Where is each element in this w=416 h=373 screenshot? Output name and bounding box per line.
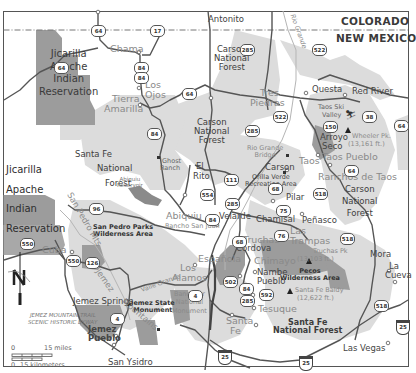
interstate-25-shield: 25: [299, 356, 313, 371]
area-pecos-wilderness: PecosWilderness Area: [280, 268, 340, 282]
town-taos-ski-2: Valley: [322, 112, 341, 119]
route-84-shield: 84: [239, 283, 254, 295]
town-santa-fe-2: Fe: [230, 326, 241, 336]
town-la-cueva-2: Cueva: [385, 271, 412, 280]
area-jicarilla-west: JicarillaApacheIndianReservation: [6, 160, 65, 238]
route-518-shield: 518: [313, 188, 328, 200]
town-ghost-ranch-2: Ranch: [160, 165, 180, 172]
peak-santa-fe-baldy-1: Santa Fe Baldy: [295, 287, 344, 294]
town-tres-piedras-2: Piedras: [250, 98, 285, 108]
ski-icon: ⛷: [345, 111, 356, 120]
route-84-shield: 84: [147, 128, 162, 140]
town-pilar: Pilar: [286, 193, 304, 202]
town-tierra-amarilla-2: Amarilla: [104, 104, 143, 114]
route-76-shield: 76: [274, 230, 289, 242]
route-126-shield: 126: [85, 257, 100, 269]
route-64-shield: 64: [344, 165, 359, 177]
route-84-shield: 84: [134, 72, 149, 84]
town-red-river: Red River: [352, 87, 393, 96]
town-el-rito-1: El: [196, 162, 204, 171]
area-carson-nf-east: CarsonNationalForest: [342, 184, 377, 220]
route-4-shield: 4: [188, 290, 203, 302]
town-chama: Chama: [110, 44, 144, 54]
peak-wheeler-1: Wheeler Pk.: [352, 133, 391, 140]
area-carson-nf-mid: CarsonNationalForest: [194, 118, 229, 145]
state-label-new-mexico: NEW MEXICO: [336, 33, 416, 44]
town-los-ojos-2: Ojos: [145, 90, 166, 100]
interstate-25-shield: 25: [396, 320, 410, 335]
town-carson: Carson: [265, 163, 295, 172]
santa-fe-baldy-icon: [287, 288, 293, 294]
area-santa-fe-nf-south: Santa FeNational Forest: [273, 319, 342, 336]
scale-km: 15 kilometers: [20, 362, 65, 369]
route-285-shield: 285: [245, 125, 260, 137]
route-96-shield: 96: [89, 203, 104, 215]
route-285-shield: 285: [240, 295, 255, 307]
route-550-shield: 550: [66, 255, 81, 267]
route-111-shield: 111: [224, 174, 239, 186]
byway-label-1: JEMEZ MOUNTAIN TRAIL: [30, 313, 96, 319]
town-jemez-pueblo-2: Pueblo: [88, 334, 121, 343]
scale-miles: 15 miles: [44, 345, 72, 352]
route-68-shield: 68: [232, 236, 247, 248]
route-554-shield: 554: [200, 189, 215, 201]
route-592-shield: 592: [259, 289, 274, 301]
route-64-shield: 64: [91, 25, 106, 37]
route-84-shield: 84: [205, 214, 220, 226]
route-522-shield: 522: [273, 111, 288, 123]
route-522-shield: 522: [312, 44, 327, 56]
route-17-shield: 17: [150, 25, 165, 37]
town-velarde: Velarde: [219, 212, 251, 221]
route-4-shield: 4: [110, 313, 125, 325]
town-antonito: Antonito: [208, 15, 244, 24]
route-518-shield: 518: [374, 300, 389, 312]
area-rio-grande-bridge: Rio GrandeBridge: [247, 145, 283, 159]
route-64-shield: 64: [182, 88, 197, 100]
peak-truchas-1: Truchas Pk: [313, 248, 348, 255]
route-285-shield: 285: [240, 44, 255, 56]
peak-santa-fe-baldy-2: (12,622 ft.): [297, 295, 334, 302]
peak-truchas-2: (13,103 ft.): [297, 256, 334, 263]
interstate-25-shield: 25: [218, 350, 232, 365]
route-38-shield: 38: [362, 111, 377, 123]
route-68-shield: 68: [268, 183, 283, 195]
town-las-trampas-2: Trampas: [290, 236, 330, 246]
town-el-rito-2: Rito: [193, 172, 210, 181]
town-mora: Mora: [370, 250, 391, 259]
town-chimayo: Chimayo: [254, 256, 296, 266]
area-san-pedro-parks: San Pedro ParksWilderness Area: [93, 224, 153, 238]
town-penasco: Peñasco: [302, 216, 337, 225]
town-tesuque: Tesuque: [258, 304, 297, 314]
town-san-ysidro: San Ysidro: [108, 358, 153, 367]
scale-km-zero: 0: [11, 362, 15, 369]
route-550-shield: 550: [20, 238, 35, 250]
town-taos-ski-1: Taos Ski: [318, 104, 344, 111]
route-75-shield: 75: [276, 205, 291, 217]
route-518-shield: 518: [340, 233, 355, 245]
byway-label-2: SCENIC HISTORIC BYWAY: [28, 320, 97, 326]
town-espanola: Española: [198, 254, 241, 264]
town-cuba: Cuba: [42, 245, 67, 255]
route-64-shield: 64: [394, 120, 409, 132]
scale-miles-zero: 0: [11, 345, 15, 352]
route-502-shield: 502: [223, 276, 238, 288]
area-abiquiu-reservoir: AbiquiuReservoir: [117, 177, 143, 189]
town-questa: Questa: [312, 85, 342, 94]
route-150-shield: 150: [323, 121, 338, 133]
route-285-shield: 285: [225, 198, 240, 210]
town-las-vegas: Las Vegas: [343, 344, 386, 353]
town-taos-pueblo: Taos Pueblo: [322, 152, 378, 162]
state-label-colorado: COLORADO: [341, 16, 409, 27]
town-arroyo-seco-2: Seco: [322, 142, 343, 151]
peak-wheeler-2: (13,161 ft.): [348, 141, 385, 148]
town-taos: Taos: [299, 156, 320, 166]
town-abiquiu: Abiquiu: [166, 211, 202, 221]
town-chamisal: Chamisal: [256, 215, 295, 224]
route-64-shield: 64: [54, 62, 69, 74]
area-jicarilla-north: JicarillaApacheIndianReservation: [39, 48, 98, 98]
